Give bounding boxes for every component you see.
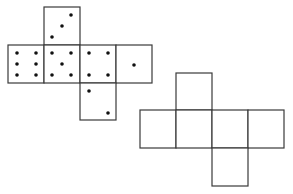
face-two — [80, 83, 116, 120]
cube-nets-diagram — [0, 0, 293, 194]
blank-face-bottom — [212, 148, 248, 186]
blank-face-3 — [212, 110, 248, 148]
blank-face-4 — [248, 110, 284, 148]
blank-face-2 — [176, 110, 212, 148]
face-four — [80, 45, 116, 83]
dotted-cube-net — [8, 7, 152, 120]
blank-face-1 — [140, 110, 176, 148]
blank-cube-net — [140, 73, 284, 186]
blank-face-top — [176, 73, 212, 110]
face-six — [8, 45, 44, 83]
